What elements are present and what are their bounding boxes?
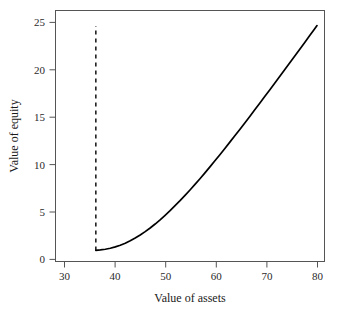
- y-tick-label: 5: [40, 206, 46, 218]
- chart-figure: 30 40 50 60 70 80 0 5 10 15 20 25: [0, 0, 342, 314]
- series-group: [96, 26, 317, 251]
- y-tick-label: 20: [34, 64, 46, 76]
- x-tick-label: 40: [110, 270, 122, 282]
- x-tick-labels: 30 40 50 60 70 80: [59, 270, 324, 282]
- equity-value-plot: 30 40 50 60 70 80 0 5 10 15 20 25: [0, 0, 342, 314]
- x-axis-title: Value of assets: [154, 291, 226, 305]
- equity-curve: [96, 26, 317, 251]
- x-tick-label: 70: [261, 270, 273, 282]
- y-tick-labels: 0 5 10 15 20 25: [34, 16, 46, 265]
- x-tick-label: 50: [160, 270, 172, 282]
- y-tick-label: 0: [40, 253, 46, 265]
- x-tick-marks: [65, 262, 318, 268]
- y-axis-title: Value of equity: [7, 99, 21, 172]
- y-tick-label: 10: [34, 159, 46, 171]
- x-tick-label: 80: [312, 270, 324, 282]
- x-tick-label: 60: [211, 270, 223, 282]
- y-tick-marks: [50, 22, 56, 259]
- y-tick-label: 25: [34, 16, 46, 28]
- x-tick-label: 30: [59, 270, 71, 282]
- y-tick-label: 15: [34, 111, 46, 123]
